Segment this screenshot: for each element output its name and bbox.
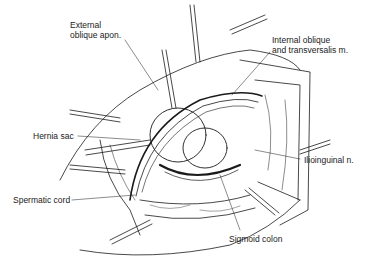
label-line: Ilioinguinal n. xyxy=(304,155,354,165)
figure-canvas: External oblique apon. Internal oblique … xyxy=(0,0,367,274)
label-line: and transversalis m. xyxy=(272,45,348,55)
label-external-oblique: External oblique apon. xyxy=(70,20,121,40)
label-hernia-sac: Hernia sac xyxy=(33,131,74,141)
label-line: oblique apon. xyxy=(70,30,121,40)
label-internal-oblique: Internal oblique and transversalis m. xyxy=(272,35,348,55)
label-line: Internal oblique xyxy=(272,35,348,45)
label-spermatic-cord: Spermatic cord xyxy=(13,195,70,205)
label-line: Hernia sac xyxy=(33,131,74,141)
label-sigmoid-colon: Sigmoid colon xyxy=(229,234,282,244)
label-line: External xyxy=(70,20,121,30)
label-ilioinguinal: Ilioinguinal n. xyxy=(304,155,354,165)
label-line: Sigmoid colon xyxy=(229,234,282,244)
label-line: Spermatic cord xyxy=(13,195,70,205)
